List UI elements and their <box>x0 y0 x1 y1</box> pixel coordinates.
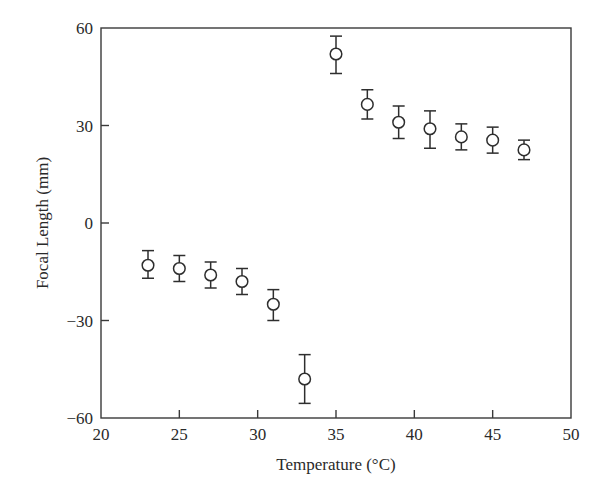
data-point <box>236 269 248 295</box>
x-axis-ticks <box>179 410 492 418</box>
x-tick-label: 45 <box>484 425 501 444</box>
data-point <box>205 262 217 288</box>
circle-marker-icon <box>424 123 436 135</box>
data-point <box>330 36 342 73</box>
circle-marker-icon <box>362 99 374 111</box>
x-axis-tick-labels: 20253035404550 <box>93 425 580 444</box>
circle-marker-icon <box>518 144 530 156</box>
y-tick-label: 60 <box>76 19 93 38</box>
data-point <box>393 106 405 139</box>
x-tick-label: 50 <box>563 425 580 444</box>
data-point <box>518 140 530 160</box>
data-point <box>299 355 311 404</box>
x-axis-label: Temperature (°C) <box>276 455 395 474</box>
x-tick-label: 25 <box>171 425 188 444</box>
y-axis-label: Focal Length (mm) <box>33 157 52 289</box>
data-point <box>142 251 154 279</box>
circle-marker-icon <box>174 263 186 275</box>
y-tick-label: 0 <box>85 214 94 233</box>
y-axis-tick-labels: −60−3003060 <box>66 19 93 428</box>
circle-marker-icon <box>236 276 248 288</box>
data-point <box>173 256 185 282</box>
x-tick-label: 20 <box>93 425 110 444</box>
x-tick-label: 40 <box>406 425 423 444</box>
y-tick-label: −30 <box>66 312 93 331</box>
data-point <box>487 127 499 153</box>
data-point <box>361 90 373 119</box>
plot-frame <box>101 28 571 418</box>
scatter-chart: 20253035404550 −60−3003060 Temperature (… <box>0 0 611 496</box>
y-tick-label: 30 <box>76 117 93 136</box>
data-point <box>267 290 279 321</box>
data-points <box>142 36 530 403</box>
circle-marker-icon <box>456 131 468 143</box>
circle-marker-icon <box>142 259 154 271</box>
data-point <box>455 124 467 150</box>
circle-marker-icon <box>299 373 311 385</box>
circle-marker-icon <box>393 116 405 128</box>
y-axis-ticks <box>101 126 109 321</box>
data-point <box>424 111 436 148</box>
x-tick-label: 35 <box>328 425 345 444</box>
circle-marker-icon <box>268 298 280 310</box>
x-tick-label: 30 <box>249 425 266 444</box>
circle-marker-icon <box>205 269 217 281</box>
y-tick-label: −60 <box>66 409 93 428</box>
circle-marker-icon <box>487 134 499 146</box>
circle-marker-icon <box>330 48 342 60</box>
